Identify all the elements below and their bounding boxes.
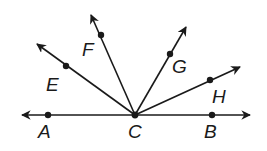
label-a: A	[38, 122, 51, 141]
label-h: H	[212, 87, 226, 106]
point-e	[63, 63, 69, 69]
label-c: C	[128, 122, 142, 141]
label-e: E	[46, 75, 59, 94]
point-f	[98, 32, 104, 38]
label-g: G	[172, 57, 187, 76]
label-b: B	[204, 122, 217, 141]
point-b	[209, 112, 215, 118]
point-c	[132, 112, 139, 119]
point-h	[207, 77, 213, 83]
point-a	[45, 112, 51, 118]
geometry-diagram: A B C E F G H	[0, 0, 267, 151]
label-f: F	[82, 40, 94, 59]
